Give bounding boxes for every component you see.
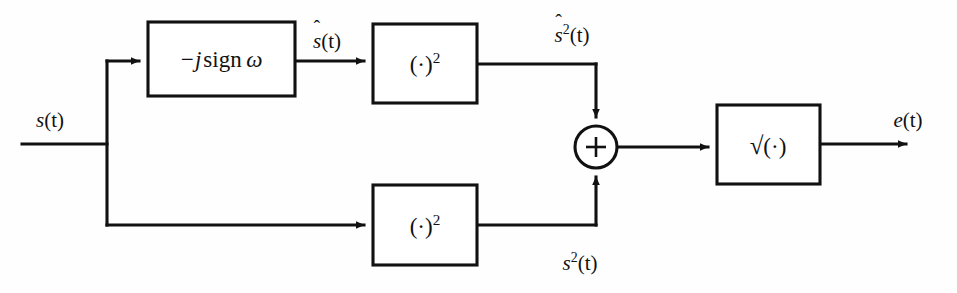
output-signal-label: e(t)	[893, 110, 922, 131]
square-upper-exponent: 2	[433, 49, 441, 66]
hilbert-omega-text: ω	[246, 47, 262, 72]
hilbert-output-arg: (t)	[321, 29, 341, 53]
square-block-upper-label: (·)2	[410, 50, 441, 76]
output-signal-arg: (t)	[903, 108, 923, 132]
input-signal-arg: (t)	[44, 108, 64, 132]
block-diagram-figure: −j sign ω (·)2 (·)2 √(·) s(t) s(t) s2(t)…	[0, 0, 957, 293]
sqrt-close-paren: )	[779, 134, 787, 159]
square-upper-close-paren: )	[425, 52, 433, 77]
squared-hilbert-label: s2(t)	[555, 23, 590, 46]
hilbert-sign-text: sign	[203, 47, 241, 72]
hilbert-output-label: s(t)	[313, 31, 341, 52]
squared-direct-arg: (t)	[578, 251, 598, 275]
hilbert-minus-j-text: −j	[179, 47, 201, 72]
square-block-lower-label: (·)2	[410, 212, 441, 238]
hilbert-transform-block-label: −j sign ω	[179, 48, 262, 71]
wire-layer	[0, 0, 957, 293]
square-lower-open-paren: (	[410, 214, 418, 239]
radical-icon: √	[750, 132, 764, 159]
square-lower-exponent: 2	[433, 211, 441, 228]
square-root-block-label: √(·)	[750, 133, 787, 158]
squared-direct-base: s	[563, 251, 571, 275]
input-signal-base: s	[36, 108, 44, 132]
square-lower-close-paren: )	[425, 214, 433, 239]
input-signal-label: s(t)	[36, 110, 64, 131]
hilbert-output-base: s	[313, 31, 321, 52]
squared-hilbert-arg: (t)	[570, 23, 590, 47]
output-signal-base: e	[893, 108, 902, 132]
squared-hilbert-base: s	[555, 25, 563, 46]
squared-direct-label: s2(t)	[563, 251, 598, 274]
sqrt-dot: ·	[771, 134, 779, 159]
square-upper-open-paren: (	[410, 52, 418, 77]
